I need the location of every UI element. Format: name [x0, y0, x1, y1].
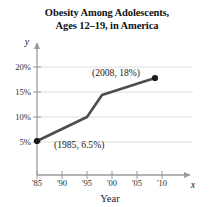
x-tick-labels: '85 '90 '95 '00 '05 '10 — [32, 178, 167, 188]
x-axis-variable-label: x — [190, 179, 196, 190]
chart-plot-area: 20% 15% 10% 5% '85 '90 '95 '00 '05 '10 y… — [0, 0, 209, 207]
y-tick-label-15: 15% — [15, 87, 31, 97]
x-tick-label-2000: '00 — [107, 178, 117, 188]
x-tick-label-2010: '10 — [157, 178, 167, 188]
obesity-line-chart-figure: Obesity Among Adolescents, Ages 12–19, i… — [0, 0, 209, 207]
x-axis-title: Year — [100, 193, 120, 204]
data-point-marker-1985 — [34, 138, 40, 144]
annotation-1985: (1985, 6.5%) — [54, 139, 104, 151]
y-tick-labels: 20% 15% 10% 5% — [15, 62, 31, 147]
y-tick-label-5: 5% — [20, 137, 31, 147]
x-tick-label-1985: '85 — [32, 178, 42, 188]
y-tick-label-10: 10% — [15, 112, 31, 122]
x-tick-label-1990: '90 — [57, 178, 67, 188]
y-axis-arrowhead-icon — [34, 42, 40, 49]
x-tick-label-1995: '95 — [82, 178, 92, 188]
data-line-obesity-rate — [37, 78, 155, 141]
annotation-2008: (2008, 18%) — [92, 67, 140, 79]
x-tick-label-2005: '05 — [132, 178, 142, 188]
y-axis — [33, 42, 41, 175]
x-axis-arrowhead-icon — [184, 172, 191, 178]
y-axis-variable-label: y — [24, 36, 30, 47]
y-tick-label-20: 20% — [15, 62, 31, 72]
data-point-marker-2008 — [152, 75, 158, 81]
